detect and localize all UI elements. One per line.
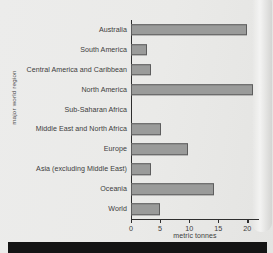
category-label: Europe (104, 145, 127, 153)
bar (131, 183, 214, 195)
y-axis-title: major world region (10, 59, 17, 137)
x-axis-tick-label: 10 (185, 224, 193, 233)
category-label: Oceania (100, 185, 127, 193)
bar-chart: major world region AustraliaSouth Americ… (0, 0, 262, 238)
bar (131, 84, 253, 96)
bar (131, 64, 151, 76)
x-axis-tick-label: 15 (214, 224, 222, 233)
x-axis-tick-label: 20 (243, 224, 251, 233)
bottom-strip (8, 242, 267, 253)
category-label: World (108, 205, 127, 213)
bar-row: World (131, 199, 259, 219)
bar (131, 44, 147, 56)
bar-row: Middle East and North Africa (131, 120, 259, 140)
bar (131, 24, 247, 36)
x-axis-tick (189, 219, 190, 223)
category-label: Sub-Saharan Africa (65, 106, 127, 114)
category-label: South America (80, 46, 127, 54)
bar-row: Asia (excluding Middle East) (131, 159, 259, 179)
bar-row: Sub-Saharan Africa (131, 100, 259, 120)
category-label: Central America and Caribbean (27, 66, 127, 74)
x-axis-tick-label: 0 (129, 224, 133, 233)
x-axis-title: metric tonnes (131, 232, 259, 239)
x-axis-tick (131, 219, 132, 223)
x-axis-tick (218, 219, 219, 223)
bar (131, 124, 161, 136)
plot-area: AustraliaSouth AmericaCentral America an… (131, 20, 259, 219)
category-label: Asia (excluding Middle East) (36, 165, 127, 173)
x-axis-tick-label: 5 (158, 224, 162, 233)
bar-row: North America (131, 80, 259, 100)
category-label: Middle East and North Africa (36, 125, 127, 133)
x-axis-tick (160, 219, 161, 223)
bar (131, 144, 188, 156)
bar-row: Europe (131, 139, 259, 159)
bar (131, 203, 160, 215)
bar-row: Oceania (131, 179, 259, 199)
x-axis-line (131, 219, 259, 220)
category-label: Australia (99, 26, 127, 34)
x-axis-tick (247, 219, 248, 223)
bar-row: Central America and Caribbean (131, 60, 259, 80)
bar-row: Australia (131, 20, 259, 40)
bar-row: South America (131, 40, 259, 60)
category-label: North America (81, 86, 127, 94)
page-background: major world region AustraliaSouth Americ… (0, 0, 273, 253)
bar (131, 163, 151, 175)
